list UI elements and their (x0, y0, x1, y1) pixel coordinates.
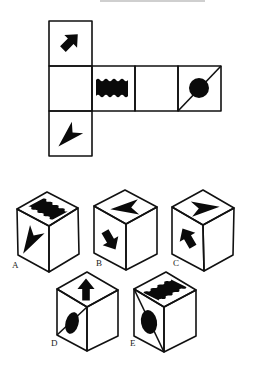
option-cube-e[interactable]: E (130, 272, 196, 352)
net-face-middle-2 (92, 66, 135, 111)
option-label-c: C (173, 258, 179, 268)
header-cutoff-text (100, 0, 205, 2)
option-label-d: D (51, 338, 58, 348)
option-label-e: E (130, 338, 136, 348)
thick-arrow-icon (77, 278, 94, 300)
option-cube-c[interactable]: C (172, 190, 234, 271)
option-label-b: B (96, 258, 102, 268)
circle-icon (139, 309, 159, 335)
cube-net (49, 21, 221, 156)
option-label-a: A (12, 260, 19, 270)
net-face-top (49, 21, 92, 66)
cube-folding-puzzle: A B C D (0, 0, 257, 376)
chevron-arrowhead-icon (110, 199, 140, 217)
thick-arrow-icon (175, 224, 201, 251)
option-cube-d[interactable]: D (51, 272, 118, 351)
net-face-bottom (49, 111, 92, 156)
option-cube-a[interactable]: A (12, 192, 79, 272)
chevron-arrowhead-icon (16, 225, 45, 258)
chevron-arrowhead-icon (191, 199, 221, 217)
net-face-middle-3 (135, 66, 178, 111)
chevron-arrowhead-icon (53, 122, 83, 152)
thick-arrow-icon (97, 227, 123, 254)
net-face-middle-4 (178, 66, 221, 111)
wavy-rectangle-icon (96, 79, 128, 98)
net-face-middle-1 (49, 66, 92, 111)
option-cube-b[interactable]: B (94, 190, 157, 270)
thick-arrow-icon (57, 28, 85, 56)
circle-icon (189, 78, 209, 98)
